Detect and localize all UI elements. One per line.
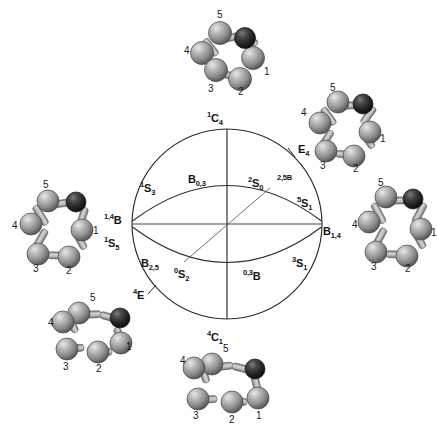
atom-number: 1 xyxy=(93,226,99,236)
atom-number: 4 xyxy=(352,220,358,230)
label-03b: 0,3B xyxy=(243,269,261,282)
label-0s2: 0S2 xyxy=(174,267,189,282)
label-5s1: 5S1 xyxy=(297,196,312,211)
atom-number: 5 xyxy=(90,293,96,303)
atom-number: 4 xyxy=(12,221,18,231)
molecule-right: 5 4 3 2 1 xyxy=(352,178,437,274)
label-3s1: 3S1 xyxy=(292,256,307,271)
label-25b: 2,5B xyxy=(277,174,292,187)
atom-number: 3 xyxy=(193,411,199,421)
label-1c4: 1C4 xyxy=(207,111,223,126)
atom-number: 1 xyxy=(380,134,386,144)
atom-number: 2 xyxy=(238,87,244,97)
atom-number: 4 xyxy=(180,356,186,366)
molecule-top: 5 4 3 2 1 xyxy=(183,8,275,98)
atom-number: 3 xyxy=(33,264,39,274)
atom-number: 1 xyxy=(126,342,132,352)
molecule-left: 5 4 3 2 1 xyxy=(12,178,106,274)
atom-number: 3 xyxy=(320,161,326,171)
atom-number: 2 xyxy=(66,266,72,276)
atom-number: 1 xyxy=(264,67,270,77)
atom-number: 4 xyxy=(48,318,54,328)
label-b25: B2,5 xyxy=(141,258,159,272)
atom-number: 5 xyxy=(378,178,384,188)
label-b03: B0,3 xyxy=(188,174,206,188)
atom-number: 2 xyxy=(405,264,411,274)
atom-number: 5 xyxy=(223,344,229,354)
atom-number: 2 xyxy=(96,364,102,374)
atom-number: 3 xyxy=(371,262,377,272)
atom-number: 5 xyxy=(330,83,336,93)
atom-number: 3 xyxy=(208,84,214,94)
atom-number: 4 xyxy=(184,46,190,56)
label-14b: 1,4B xyxy=(104,213,122,226)
atom-number: 2 xyxy=(353,164,359,174)
atom-number: 5 xyxy=(43,180,49,190)
atom-number: 5 xyxy=(217,10,223,20)
molecule-bottom: 5 4 3 2 1 xyxy=(180,344,276,431)
atom-number: 2 xyxy=(229,415,235,425)
molecule-bottom-left: 5 4 3 2 1 xyxy=(48,292,142,378)
tick-4e xyxy=(148,285,156,294)
atom-number: 1 xyxy=(431,228,437,238)
atom-number: 3 xyxy=(63,362,69,372)
label-1s5: 1S5 xyxy=(104,236,119,251)
atom-number: 4 xyxy=(301,108,307,118)
atom-number: 1 xyxy=(256,411,262,421)
molecule-top-right: 5 4 3 2 1 xyxy=(300,82,392,174)
label-b14: B1,4 xyxy=(323,226,341,240)
label-1s3: 1S3 xyxy=(140,181,155,196)
label-2s0: 2S0 xyxy=(248,176,263,191)
conformational-sphere-figure: 1C4 4C1 B0,3 2S0 2,5B 1S3 1,4B 1S5 B1,4 … xyxy=(0,0,437,431)
